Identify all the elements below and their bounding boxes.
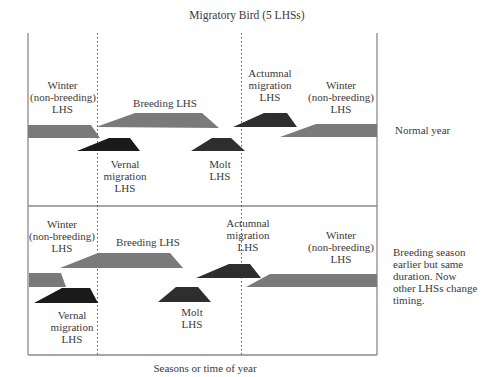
label-line: (non-breeding) — [30, 91, 95, 103]
label-line: (non-breeding) — [306, 241, 376, 253]
p2-label-breeding: Breeding LHS — [108, 236, 188, 248]
note-line: duration. Now — [393, 270, 477, 282]
p1-side-note: Normal year — [395, 124, 450, 136]
p1-label-breeding: Breeding LHS — [125, 97, 205, 109]
label-line: Winter — [306, 229, 376, 241]
note-line: earlier but same — [393, 258, 477, 270]
label-line: Winter — [306, 79, 376, 91]
label-line: migration — [95, 170, 155, 182]
p2-molt-bar — [158, 287, 211, 302]
label-line: Actumnal — [240, 67, 300, 79]
label-line: LHS — [95, 182, 155, 194]
label-line: (non-breeding) — [306, 91, 376, 103]
p1-label-autumn: Actumnal migration LHS — [240, 67, 300, 103]
label-line: migration — [240, 79, 300, 91]
note-line: timing. — [393, 294, 477, 306]
label-line: LHS — [240, 91, 300, 103]
p2-vernal-bar — [34, 288, 98, 303]
p1-label-winter-right: Winter (non-breeding) LHS — [306, 79, 376, 115]
label-line: Winter — [29, 218, 95, 230]
p2-label-autumn: Actumnal migration LHS — [218, 217, 278, 253]
p1-label-winter-left: Winter (non-breeding) LHS — [30, 79, 95, 115]
p1-molt-bar — [191, 138, 245, 151]
label-line: LHS — [218, 241, 278, 253]
label-line: Molt — [172, 306, 212, 318]
p2-side-note: Breeding season earlier but same duratio… — [393, 246, 477, 306]
p2-label-winter-left: Winter (non-breeding) LHS — [29, 218, 95, 254]
label-line: Molt — [200, 158, 240, 170]
p1-vernal-bar — [77, 138, 140, 151]
label-line: LHS — [306, 103, 376, 115]
label-line: (non-breeding) — [29, 230, 95, 242]
p2-autumn-bar — [196, 264, 261, 278]
label-line: migration — [218, 229, 278, 241]
note-line: other LHSs change — [393, 282, 477, 294]
label-line: LHS — [306, 253, 376, 265]
label-line: LHS — [30, 103, 95, 115]
label-line: migration — [42, 321, 102, 333]
p2-breeding-bar — [60, 253, 183, 268]
label-line: Winter — [30, 79, 95, 91]
label-line: Vernal — [95, 158, 155, 170]
p1-breeding-bar — [96, 113, 219, 128]
label-line: LHS — [172, 318, 212, 330]
label-line: Vernal — [42, 309, 102, 321]
p1-winter-left-bar — [28, 125, 100, 138]
p2-winter-left-bar — [29, 273, 66, 287]
note-line: Breeding season — [393, 246, 477, 258]
label-line: LHS — [42, 333, 102, 345]
p1-label-molt: Molt LHS — [200, 158, 240, 182]
x-axis-label: Seasons or time of year — [130, 362, 280, 374]
p1-autumn-bar — [233, 113, 297, 127]
p2-label-vernal: Vernal migration LHS — [42, 309, 102, 345]
p2-label-molt: Molt LHS — [172, 306, 212, 330]
p1-label-vernal: Vernal migration LHS — [95, 158, 155, 194]
p2-label-winter-right: Winter (non-breeding) LHS — [306, 229, 376, 265]
label-line: Actumnal — [218, 217, 278, 229]
p2-winter-right-bar — [246, 274, 377, 287]
label-line: LHS — [200, 170, 240, 182]
label-line: LHS — [29, 242, 95, 254]
